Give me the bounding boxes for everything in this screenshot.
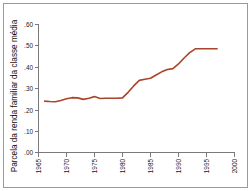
- y-tick-label: .00: [24, 149, 33, 156]
- x-tick-label: 1970: [63, 159, 70, 174]
- x-tick-label: 1995: [203, 159, 210, 174]
- y-tick-label: .20: [24, 107, 33, 114]
- x-tick-label: 1975: [91, 159, 98, 174]
- x-tick-label: 2000: [231, 159, 238, 174]
- x-axis-ticks: 1965 1970 1975 1980 1985 1990 1995 2000: [35, 153, 238, 174]
- x-tick-label: 1990: [175, 159, 182, 174]
- y-tick-label: .50: [24, 42, 33, 49]
- y-tick-label: .30: [24, 85, 33, 92]
- y-axis-title: Parcela da renda familiar da classe médi…: [10, 19, 19, 172]
- data-line-series: [44, 49, 218, 102]
- line-chart: Parcela da renda familiar da classe médi…: [0, 0, 251, 191]
- chart-figure: Parcela da renda familiar da classe médi…: [0, 0, 251, 191]
- x-tick-label: 1980: [119, 159, 126, 174]
- x-tick-label: 1965: [35, 159, 42, 174]
- y-tick-label: .60: [24, 21, 33, 28]
- y-axis-ticks: .00 .10 .20 .30 .40 .50 .60: [24, 21, 38, 156]
- y-tick-label: .10: [24, 128, 33, 135]
- x-tick-label: 1985: [147, 159, 154, 174]
- y-tick-label: .40: [24, 64, 33, 71]
- axes: [39, 25, 235, 153]
